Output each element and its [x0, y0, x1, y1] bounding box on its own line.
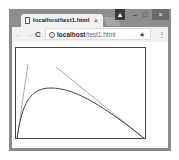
forward-button[interactable]: → — [25, 28, 33, 41]
browser-toolbar: ← → C ilocalhost/test1.html ★ ⋮ — [12, 27, 168, 42]
maximize-button[interactable]: □ — [141, 9, 149, 20]
drawing-canvas — [15, 47, 146, 139]
info-icon[interactable]: i — [49, 32, 55, 38]
address-bar[interactable]: ilocalhost/test1.html ★ — [45, 28, 151, 40]
curve-path — [17, 88, 145, 139]
minimize-button[interactable]: – — [131, 9, 139, 20]
title-bar: localhost/test1.html × ▲ – □ × — [9, 9, 171, 27]
back-button[interactable]: ← — [15, 28, 23, 41]
bookmark-star-icon[interactable]: ★ — [139, 29, 145, 40]
page-icon — [25, 17, 30, 24]
close-window-button[interactable]: × — [152, 9, 169, 20]
curve-drawing — [16, 48, 147, 140]
page-viewport — [12, 42, 168, 148]
tab-title: localhost/test1.html — [33, 17, 89, 23]
browser-window: localhost/test1.html × ▲ – □ × ← → C ilo… — [9, 9, 171, 151]
tab-close-icon[interactable]: × — [94, 14, 98, 27]
user-icon[interactable]: ▲ — [115, 9, 125, 20]
menu-icon[interactable]: ⋮ — [158, 28, 166, 41]
url-path: /test1.html — [86, 31, 116, 38]
browser-tab[interactable]: localhost/test1.html × — [21, 14, 103, 27]
reload-button[interactable]: C — [35, 28, 41, 41]
url-host: localhost — [57, 31, 86, 38]
